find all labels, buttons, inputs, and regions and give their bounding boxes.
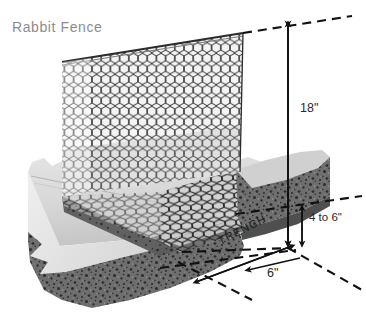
dimension-label-fence-height: 18" xyxy=(300,101,318,115)
hexagonal-wire-mesh xyxy=(62,33,243,196)
rabbit-fence-diagram: Rabbit Fence 18" 4 to 6" 6" TRENCH xyxy=(0,0,366,329)
dash-trenchbottom-extension xyxy=(288,248,362,290)
dimension-label-trench-depth: 4 to 6" xyxy=(309,211,342,223)
dimension-label-trench-width: 6" xyxy=(267,266,278,280)
dash-top-extension xyxy=(243,16,352,33)
figure-title: Rabbit Fence xyxy=(12,19,102,35)
diagram-canvas xyxy=(0,0,366,329)
